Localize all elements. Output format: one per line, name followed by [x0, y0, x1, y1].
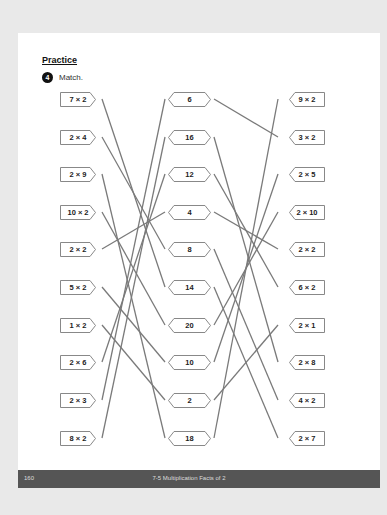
middle-box[interactable]: 8 [168, 242, 211, 257]
match-line [214, 212, 278, 249]
right-box[interactable]: 2 × 8 [289, 355, 325, 370]
right-box[interactable]: 2 × 1 [289, 318, 325, 333]
right-box-label: 6 × 2 [299, 283, 316, 292]
left-box[interactable]: 10 × 2 [60, 205, 96, 220]
match-line [214, 99, 278, 137]
right-box[interactable]: 9 × 2 [289, 92, 325, 107]
middle-box-label: 14 [185, 283, 193, 292]
match-line [214, 137, 278, 362]
middle-box-label: 2 [187, 396, 191, 405]
middle-box[interactable]: 14 [168, 280, 211, 295]
left-box[interactable]: 8 × 2 [60, 431, 96, 446]
left-box-label: 2 × 3 [70, 396, 87, 405]
left-box-label: 2 × 6 [70, 358, 87, 367]
left-box[interactable]: 2 × 3 [60, 393, 96, 408]
middle-box[interactable]: 4 [168, 205, 211, 220]
left-box-label: 10 × 2 [67, 208, 88, 217]
right-box[interactable]: 2 × 10 [289, 205, 325, 220]
left-box-label: 1 × 2 [70, 321, 87, 330]
middle-box-label: 4 [187, 208, 191, 217]
left-box-label: 8 × 2 [70, 434, 87, 443]
middle-box[interactable]: 16 [168, 130, 211, 145]
middle-box[interactable]: 12 [168, 167, 211, 182]
middle-box[interactable]: 6 [168, 92, 211, 107]
middle-box-label: 16 [185, 133, 193, 142]
middle-box-label: 18 [185, 434, 193, 443]
middle-box-label: 12 [185, 170, 193, 179]
right-box[interactable]: 2 × 2 [289, 242, 325, 257]
left-box-label: 2 × 9 [70, 170, 87, 179]
left-box-label: 2 × 4 [70, 133, 87, 142]
right-box[interactable]: 2 × 5 [289, 167, 325, 182]
match-line [102, 137, 165, 438]
footer-title: 7-5 Multiplication Facts of 2 [8, 475, 370, 481]
right-box-label: 2 × 8 [299, 358, 316, 367]
left-box-label: 2 × 2 [70, 245, 87, 254]
left-box-label: 7 × 2 [70, 95, 87, 104]
left-box[interactable]: 2 × 9 [60, 167, 96, 182]
left-box[interactable]: 1 × 2 [60, 318, 96, 333]
middle-box-label: 20 [185, 321, 193, 330]
middle-box[interactable]: 10 [168, 355, 211, 370]
middle-box[interactable]: 2 [168, 393, 211, 408]
match-line [102, 137, 165, 249]
match-line [102, 325, 165, 400]
right-box[interactable]: 3 × 2 [289, 130, 325, 145]
left-box[interactable]: 2 × 4 [60, 130, 96, 145]
left-box[interactable]: 7 × 2 [60, 92, 96, 107]
middle-box-label: 8 [187, 245, 191, 254]
match-line [102, 287, 165, 362]
match-line [214, 99, 278, 438]
match-line [102, 212, 165, 249]
right-box[interactable]: 2 × 7 [289, 431, 325, 446]
match-line [102, 174, 165, 362]
right-box-label: 2 × 7 [299, 434, 316, 443]
right-box-label: 4 × 2 [299, 396, 316, 405]
right-box-label: 2 × 2 [299, 245, 316, 254]
left-box[interactable]: 5 × 2 [60, 280, 96, 295]
middle-box-label: 6 [187, 95, 191, 104]
right-box-label: 2 × 1 [299, 321, 316, 330]
left-box[interactable]: 2 × 6 [60, 355, 96, 370]
middle-box[interactable]: 20 [168, 318, 211, 333]
middle-box[interactable]: 18 [168, 431, 211, 446]
match-line [102, 99, 165, 400]
match-line [102, 174, 165, 438]
left-box-label: 5 × 2 [70, 283, 87, 292]
left-box[interactable]: 2 × 2 [60, 242, 96, 257]
right-box[interactable]: 4 × 2 [289, 393, 325, 408]
right-box-label: 2 × 10 [296, 208, 317, 217]
right-box[interactable]: 6 × 2 [289, 280, 325, 295]
right-box-label: 3 × 2 [299, 133, 316, 142]
middle-box-label: 10 [185, 358, 193, 367]
page-footer: 160 7-5 Multiplication Facts of 2 [18, 470, 380, 488]
right-box-label: 2 × 5 [299, 170, 316, 179]
right-box-label: 9 × 2 [299, 95, 316, 104]
